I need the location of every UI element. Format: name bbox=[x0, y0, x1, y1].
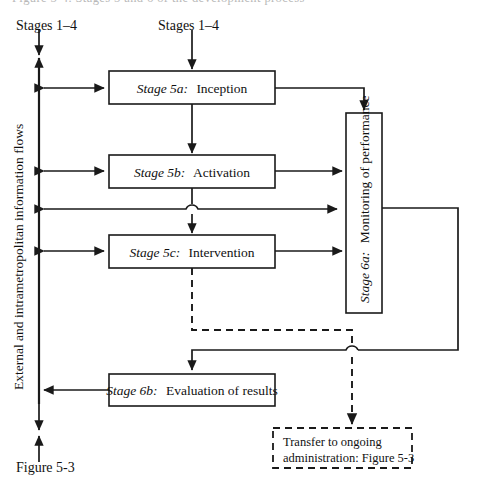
mid-horizontal-flow-line bbox=[44, 205, 337, 209]
connector-stage5a-to-stage6a bbox=[275, 88, 364, 110]
label-left-stages-input: Stages 1–4 bbox=[16, 18, 77, 33]
stage-5a-text: Inception bbox=[196, 81, 247, 96]
stage-6a-stage-text: Stage 6a: bbox=[357, 252, 372, 303]
connector-feedback-to-stage6b bbox=[192, 346, 358, 370]
stage-5c-text: Intervention bbox=[189, 245, 255, 260]
stage-6b-label: Stage 6b: Evaluation of results bbox=[106, 383, 277, 398]
figure-diagram: Figure 5-4. Stages 5 and 6 of the develo… bbox=[0, 0, 477, 488]
stage-6b-text: Evaluation of results bbox=[166, 383, 278, 398]
label-top-stages-input: Stages 1–4 bbox=[158, 18, 219, 33]
stage-6a-label: Stage 6a: Monitoring of performance bbox=[357, 96, 372, 303]
stage-6b-stage-text: Stage 6b: bbox=[106, 383, 157, 398]
diagram-canvas: Stages 1–4 Stages 1–4 Figure 5-3 Externa… bbox=[0, 0, 477, 488]
stage-6a-text: Monitoring of performance bbox=[357, 96, 372, 244]
stage-5a-stage-text: Stage 5a: bbox=[137, 81, 188, 96]
stage-5b-label: Stage 5b: Activation bbox=[134, 165, 250, 180]
stage-5b-stage-text: Stage 5b: bbox=[134, 165, 185, 180]
stage-5b-text: Activation bbox=[193, 165, 250, 180]
transfer-note-line1: Transfer to ongoing bbox=[283, 435, 383, 449]
stage-5c-label: Stage 5c: Intervention bbox=[130, 245, 255, 260]
stage-5c-stage-text: Stage 5c: bbox=[130, 245, 181, 260]
label-side-axis: External and intrametropolitan informati… bbox=[11, 124, 26, 390]
stage-5a-box bbox=[109, 71, 275, 104]
dashed-route-stage5c-to-transfer-upper bbox=[192, 268, 352, 344]
transfer-note-line2: administration: Figure 5-3 bbox=[283, 451, 414, 465]
label-bottom-figure-reference: Figure 5-3 bbox=[16, 460, 75, 475]
